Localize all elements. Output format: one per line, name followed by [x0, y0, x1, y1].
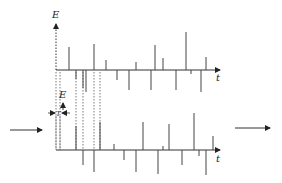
bottom-spikes — [76, 113, 213, 175]
top-spikes — [69, 32, 206, 92]
bottom-plot: E t T — [48, 89, 221, 175]
top-e-label: E — [51, 9, 60, 20]
shift-label: T — [56, 110, 62, 118]
dashed-links — [56, 72, 100, 150]
top-plot: E t — [51, 9, 221, 92]
bottom-e-label: E — [58, 89, 67, 100]
spike-train-diagram: E t E t T — [0, 0, 282, 183]
shift-marker: T — [48, 110, 70, 118]
bottom-t-label: t — [216, 153, 221, 164]
top-t-label: t — [216, 72, 221, 83]
